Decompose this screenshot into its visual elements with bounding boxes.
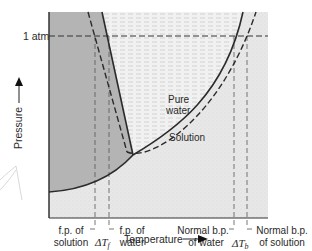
- bp-solution-label-2: of solution: [259, 237, 305, 248]
- delta-tf-label: ΔTf: [94, 236, 112, 250]
- fp-solution-label-1: f.p. of: [58, 225, 83, 236]
- pure-label: Pure: [168, 94, 190, 105]
- solution-label: Solution: [169, 132, 205, 143]
- delta-tb-label: ΔTb: [231, 237, 249, 251]
- temperature-label: Temperature: [124, 233, 183, 245]
- phase-diagram: 1 atm Pressure Pure water Solution f.p. …: [0, 0, 312, 251]
- bp-solution-label-1: Normal b.p.: [256, 225, 308, 236]
- one-atm-label: 1 atm: [23, 30, 50, 42]
- pencil-mark: [0, 166, 22, 200]
- water-label: water: [165, 105, 191, 116]
- pressure-label: Pressure: [12, 107, 24, 149]
- fp-solution-label-2: solution: [54, 237, 88, 248]
- bp-water-label-1: Normal b.p.: [177, 225, 229, 236]
- pressure-arrow-icon: [15, 77, 23, 86]
